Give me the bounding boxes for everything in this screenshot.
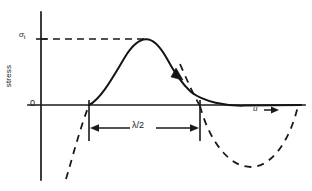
sigma-t-subscript: t [24,34,26,40]
span-arrow-left-head-icon [90,124,99,132]
dashed-sine-right-trough [200,106,298,167]
dashed-sine-left-lobe [66,105,89,179]
y-axis-label: stress [5,56,13,96]
sigma-t-label: σt [19,31,26,40]
span-arrow-right-head-icon [190,124,199,132]
zero-tick-label: 0 [30,99,35,108]
displacement-axis-label: u [253,105,257,113]
figure-container: stress σt 0 λ/2 u [0,0,312,191]
half-wavelength-label: λ/2 [132,121,144,130]
solid-stress-curve [89,39,301,105]
u-arrow-head-icon [271,107,279,114]
stress-displacement-plot [0,0,312,191]
